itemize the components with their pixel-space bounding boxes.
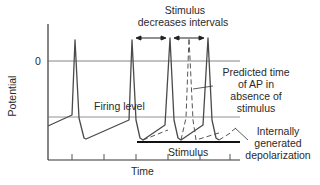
- title-line-2: decreases intervals: [118, 16, 248, 28]
- zero-tick-label: 0: [35, 55, 41, 67]
- predicted-label-line-4: stimulus: [206, 102, 306, 114]
- y-axis-label: Potential: [6, 76, 18, 117]
- x-axis-label: Time: [131, 165, 154, 177]
- predicted-label-line-2: of AP in: [206, 78, 306, 90]
- title-line-1: Stimulus: [140, 4, 230, 16]
- internal-label-line-1: Internally: [238, 125, 318, 137]
- stimulus-label: Stimulus: [168, 146, 208, 158]
- predicted-label-line-3: absence of: [206, 90, 306, 102]
- firing-level-label: Firing level: [94, 100, 145, 112]
- internal-label-line-3: depolarization: [238, 149, 318, 161]
- internal-label-line-2: generated: [238, 137, 318, 149]
- predicted-label-line-1: Predicted time: [206, 66, 306, 78]
